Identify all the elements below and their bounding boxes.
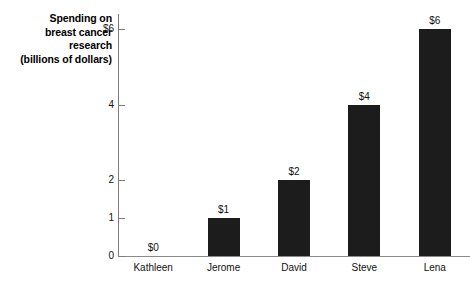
bar-steve [348, 105, 380, 256]
bar-david [278, 180, 310, 256]
category-label-lena: Lena [424, 262, 446, 273]
y-axis-title-line-3: research [6, 39, 112, 53]
bar-value-label: $4 [359, 91, 370, 102]
y-axis-title: Spending on breast cancer research (bill… [6, 12, 112, 66]
bar-value-label: $6 [429, 15, 440, 26]
bar-value-label: $2 [288, 166, 299, 177]
category-label-kathleen: Kathleen [133, 262, 172, 273]
bar-lena [419, 29, 451, 256]
y-axis-title-line-4: (billions of dollars) [6, 53, 112, 67]
y-tick-mark [119, 256, 125, 257]
bar-group: $1 [188, 14, 258, 256]
bar-value-label: $1 [218, 204, 229, 215]
bar-group: $4 [329, 14, 399, 256]
y-tick-label: 0 [78, 250, 114, 261]
plot-area: $0$1$2$4$6 [118, 14, 470, 256]
bar-group: $2 [259, 14, 329, 256]
bar-group: $6 [400, 14, 470, 256]
y-tick-label: 1 [78, 212, 114, 223]
category-label-david: David [281, 262, 307, 273]
bar-group: $0 [118, 14, 188, 256]
x-axis-line [118, 256, 470, 257]
y-tick-label: 4 [78, 99, 114, 110]
category-label-steve: Steve [352, 262, 378, 273]
bar-chart: Spending on breast cancer research (bill… [0, 0, 470, 282]
y-tick-label: 2 [78, 174, 114, 185]
bar-jerome [208, 218, 240, 256]
bar-value-label: $0 [148, 242, 159, 253]
category-label-jerome: Jerome [207, 262, 240, 273]
y-tick-label: $6 [78, 23, 114, 34]
